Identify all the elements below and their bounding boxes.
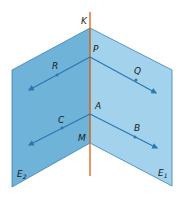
planes-diagram: K P Q R A B C M E2 E1 (0, 0, 179, 200)
diagram-stage: K P Q R A B C M E2 E1 (0, 0, 179, 200)
plane-e2 (12, 28, 90, 187)
point-q (135, 79, 138, 82)
label-r: R (52, 61, 58, 71)
label-p: P (93, 44, 99, 54)
label-c: C (58, 115, 65, 125)
plane-e1 (90, 28, 172, 186)
label-q: Q (134, 66, 141, 76)
point-c (61, 127, 64, 130)
label-k: K (81, 16, 88, 26)
point-r (56, 74, 59, 77)
label-b: B (134, 123, 140, 133)
point-b (134, 136, 137, 139)
label-a: A (94, 101, 101, 111)
label-m: M (78, 133, 86, 143)
